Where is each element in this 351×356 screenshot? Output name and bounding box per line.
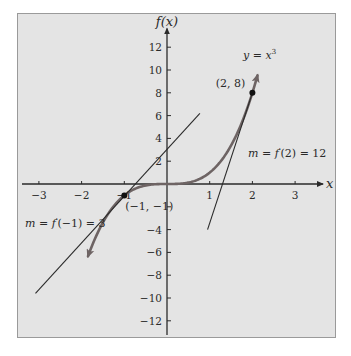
- x-tick-label: 2: [249, 189, 256, 201]
- x-axis-label: x: [326, 176, 334, 191]
- cubic-curve: [88, 75, 258, 256]
- slope-label-at-neg1: m = f′(−1) = 3: [25, 216, 106, 230]
- tangent-line-neg1: [35, 113, 199, 293]
- curve-label-eq: =: [249, 49, 265, 62]
- y-tick-label: 6: [155, 110, 162, 122]
- y-tick-label: −10: [140, 292, 162, 304]
- y-tick-label: 8: [155, 87, 162, 99]
- y-tick-label: 10: [149, 64, 162, 76]
- curve-label: y = x3: [242, 48, 276, 62]
- point-marker: [121, 192, 127, 198]
- y-axis-label: f(x): [155, 14, 178, 29]
- x-tick-label: 1: [206, 189, 213, 201]
- axes: [22, 28, 323, 335]
- y-tick-label: −12: [140, 315, 162, 327]
- slope-label-at-2: m = f′(2) = 12: [248, 146, 326, 160]
- y-tick-label: 4: [155, 132, 162, 144]
- chart-svg: −3−2−112312108642−4−6−8−10−12 (−1, −1)(2…: [0, 0, 351, 356]
- x-tick-label: −3: [31, 189, 46, 201]
- point-label: (2, 8): [216, 77, 246, 90]
- point-marker: [249, 90, 255, 96]
- tangent-line-2: [208, 93, 253, 230]
- y-tick-label: −4: [147, 224, 163, 236]
- point-label: (−1, −1): [125, 200, 173, 213]
- curve-label-exp: 3: [272, 48, 276, 56]
- y-tick-label: −8: [147, 269, 162, 281]
- y-tick-label: −6: [147, 246, 163, 258]
- y-tick-label: 12: [149, 41, 162, 53]
- x-tick-label: 3: [292, 189, 299, 201]
- x-tick-label: −2: [74, 189, 89, 201]
